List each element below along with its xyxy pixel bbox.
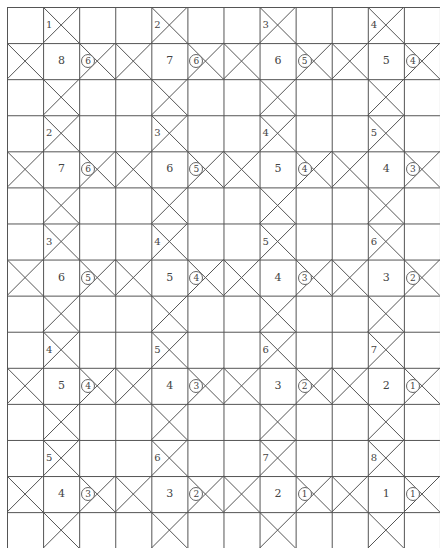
main-number: 8	[58, 55, 65, 66]
main-number: 2	[383, 380, 390, 391]
row-label: 4	[371, 20, 377, 30]
row-label: 4	[46, 345, 52, 355]
row-label: 7	[371, 345, 377, 355]
row-label: 8	[371, 453, 377, 463]
circled-number-badge: 1	[298, 487, 312, 501]
main-number: 5	[275, 163, 282, 174]
circled-number-badge: 4	[81, 379, 95, 393]
main-number: 3	[275, 380, 282, 391]
main-number: 4	[166, 380, 173, 391]
main-number: 5	[383, 55, 390, 66]
circled-number-badge: 2	[298, 379, 312, 393]
row-label: 7	[263, 453, 269, 463]
row-label: 5	[371, 128, 377, 138]
main-number: 6	[275, 55, 282, 66]
row-label: 5	[154, 345, 160, 355]
grid-lines	[7, 7, 440, 548]
main-number: 1	[383, 488, 390, 499]
circled-number-badge: 4	[189, 271, 203, 285]
row-label: 2	[154, 20, 160, 30]
row-label: 3	[46, 237, 52, 247]
circled-number-badge: 5	[81, 271, 95, 285]
row-label: 3	[263, 20, 269, 30]
main-number: 7	[166, 55, 173, 66]
row-label: 2	[46, 128, 52, 138]
main-number: 3	[383, 272, 390, 283]
main-number: 5	[166, 272, 173, 283]
row-label: 3	[154, 128, 160, 138]
main-number: 6	[58, 272, 65, 283]
row-label: 5	[263, 237, 269, 247]
circled-number-badge: 1	[406, 487, 420, 501]
main-number: 6	[166, 163, 173, 174]
circled-number-badge: 5	[298, 54, 312, 68]
main-number: 4	[275, 272, 282, 283]
circled-number-badge: 2	[406, 271, 420, 285]
row-label: 6	[371, 237, 377, 247]
main-number: 4	[58, 488, 65, 499]
main-number: 2	[275, 488, 282, 499]
main-number: 7	[58, 163, 65, 174]
row-label: 4	[154, 237, 160, 247]
row-label: 6	[263, 345, 269, 355]
row-label: 5	[46, 453, 52, 463]
main-number: 5	[58, 380, 65, 391]
row-label: 4	[263, 128, 269, 138]
main-number: 3	[166, 488, 173, 499]
circled-number-badge: 3	[298, 271, 312, 285]
circled-number-badge: 4	[406, 54, 420, 68]
circled-number-badge: 1	[406, 379, 420, 393]
row-label: 1	[46, 20, 52, 30]
circled-number-badge: 4	[298, 162, 312, 176]
main-number: 4	[383, 163, 390, 174]
puzzle-grid: 1862763654542763654545433654545436324545…	[7, 7, 440, 548]
row-label: 6	[154, 453, 160, 463]
